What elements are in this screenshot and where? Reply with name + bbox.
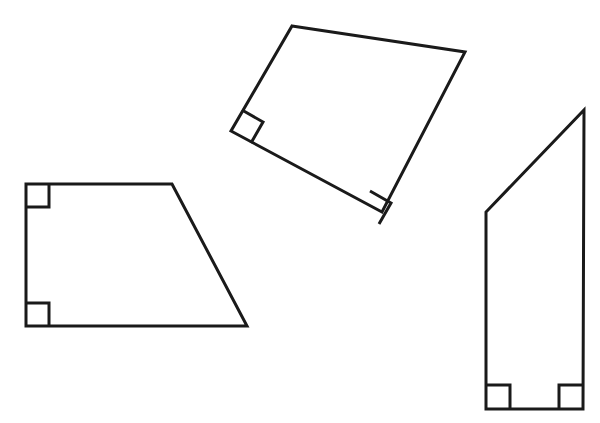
geometry-figure-canvas — [0, 0, 600, 423]
